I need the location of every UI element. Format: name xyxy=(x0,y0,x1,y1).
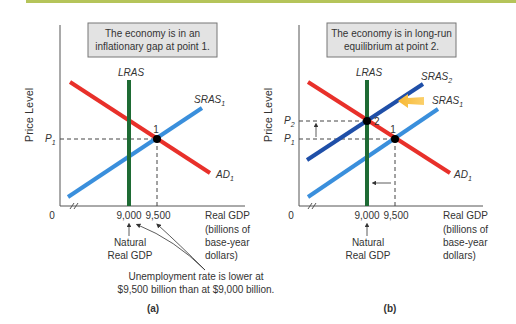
svg-text:dollars): dollars) xyxy=(205,250,238,261)
svg-text:base-year: base-year xyxy=(205,237,250,248)
panel-b-natural-label-1: Natural xyxy=(352,237,384,248)
panel-b-sras2-label: SRAS2 xyxy=(421,71,452,84)
svg-text:dollars): dollars) xyxy=(443,250,476,261)
panel-b-p2-tick: P2 xyxy=(284,115,295,128)
panel-a-lras-label: LRAS xyxy=(118,67,144,78)
svg-text:(billions of: (billions of xyxy=(205,224,250,235)
panel-b-ad1-label: AD1 xyxy=(453,169,472,182)
panel-b-tick-9500: 9,500 xyxy=(383,210,408,221)
panel-b: The economy is in long-run equilibrium a… xyxy=(262,23,488,314)
svg-text:base-year: base-year xyxy=(443,237,488,248)
panel-a-annotation-arrow-9500-icon xyxy=(158,225,205,270)
svg-text:Real GDP: Real GDP xyxy=(443,210,488,221)
panel-b-box-line-2: equilibrium at point 2. xyxy=(344,41,439,52)
panel-a-p1-tick: P1 xyxy=(45,133,56,146)
panel-a-ad1-label: AD1 xyxy=(215,169,234,182)
panel-b-ad1-curve xyxy=(308,82,450,173)
panel-b-natural-label-2: Real GDP xyxy=(345,250,390,261)
panel-a-tick-9000: 9,000 xyxy=(116,210,141,221)
panel-b-origin-label: 0 xyxy=(288,210,294,221)
panel-b-x-axis-label: Real GDP (billions of base-year dollars) xyxy=(443,210,488,261)
panel-a-ad1-curve xyxy=(70,82,210,173)
panel-a-x-axis-label: Real GDP (billions of base-year dollars) xyxy=(205,210,250,261)
panel-a-caption: (a) xyxy=(147,303,159,314)
panel-b-box-line-1: The economy is in long-run xyxy=(331,28,452,39)
diagram-canvas: The economy is in an inflationary gap at… xyxy=(0,0,516,324)
svg-text:(billions of: (billions of xyxy=(443,224,488,235)
panel-b-point-1 xyxy=(391,135,399,143)
panel-a-tick-9500: 9,500 xyxy=(145,210,170,221)
svg-text:Real GDP: Real GDP xyxy=(205,210,250,221)
panel-a-natural-label-2: Real GDP xyxy=(107,250,152,261)
panel-b-lras-label: LRAS xyxy=(356,67,382,78)
panel-b-tick-9000: 9,000 xyxy=(354,210,379,221)
panel-a-info-box: The economy is in an inflationary gap at… xyxy=(88,23,217,57)
panel-b-point-2-label: 2 xyxy=(374,116,380,127)
panel-a-box-line-1: The economy is in an xyxy=(105,28,200,39)
panel-a-sras1-label: SRAS1 xyxy=(194,94,225,107)
panel-a-point-1 xyxy=(153,135,161,143)
panel-b-info-box: The economy is in long-run equilibrium a… xyxy=(327,23,456,57)
panel-a: The economy is in an inflationary gap at… xyxy=(23,23,274,314)
panel-b-p1-tick: P1 xyxy=(284,133,295,146)
panel-a-annotation-line-2: $9,500 billion than at $9,000 billion. xyxy=(118,284,275,295)
panel-b-point-2 xyxy=(363,117,371,125)
panel-a-annotation-arrow-9000-icon xyxy=(138,225,205,270)
panel-a-y-axis-label: Price Level xyxy=(23,88,35,142)
panel-a-origin-label: 0 xyxy=(49,210,55,221)
panel-b-y-axis-label: Price Level xyxy=(262,88,274,142)
panel-a-natural-label-1: Natural xyxy=(114,237,146,248)
panel-a-annotation-line-1: Unemployment rate is lower at xyxy=(128,271,263,282)
panel-a-box-line-2: inflationary gap at point 1. xyxy=(95,41,210,52)
panel-b-caption: (b) xyxy=(384,303,397,314)
panel-b-sras1-label: SRAS1 xyxy=(432,95,463,108)
panel-a-point-1-label: 1 xyxy=(153,124,159,135)
panel-b-point-1-label: 1 xyxy=(390,124,396,135)
